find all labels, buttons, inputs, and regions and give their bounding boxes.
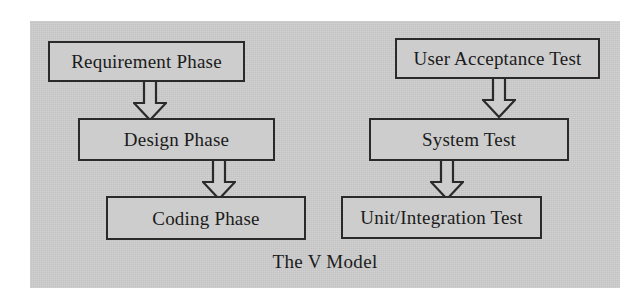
arrow-requirement-to-design-icon xyxy=(133,79,167,121)
node-coding-phase-label: Coding Phase xyxy=(152,209,259,228)
arrow-system-to-unit-icon xyxy=(430,158,464,200)
node-requirement-phase-label: Requirement Phase xyxy=(71,52,222,71)
diagram-canvas: Requirement Phase Design Phase Coding Ph… xyxy=(0,0,641,301)
node-system-test: System Test xyxy=(369,118,569,161)
diagram-caption: The V Model xyxy=(30,251,620,273)
arrow-acceptance-to-system-icon xyxy=(482,76,516,118)
node-requirement-phase: Requirement Phase xyxy=(48,41,245,82)
node-user-acceptance-test: User Acceptance Test xyxy=(395,38,600,79)
node-unit-integration-test: Unit/Integration Test xyxy=(341,196,542,239)
node-coding-phase: Coding Phase xyxy=(106,196,306,240)
arrow-design-to-coding-icon xyxy=(202,158,236,200)
node-system-test-label: System Test xyxy=(422,130,516,149)
node-design-phase-label: Design Phase xyxy=(124,130,229,149)
node-user-acceptance-test-label: User Acceptance Test xyxy=(414,49,582,68)
node-design-phase: Design Phase xyxy=(78,118,275,161)
diagram-panel: Requirement Phase Design Phase Coding Ph… xyxy=(30,21,620,288)
node-unit-integration-test-label: Unit/Integration Test xyxy=(360,208,522,227)
